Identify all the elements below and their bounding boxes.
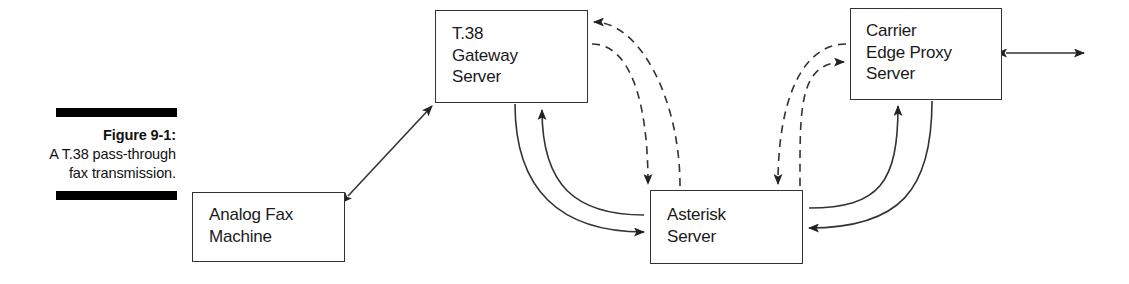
edge-carrier-to-asterisk-dashed — [778, 44, 846, 184]
caption-rule-bottom — [56, 191, 177, 200]
caption-body: A T.38 pass-through fax transmission. — [30, 145, 176, 183]
edge-t38-to-asterisk-dashed — [592, 44, 648, 184]
edge-carrier-to-asterisk-solid — [809, 101, 932, 228]
node-carrier-edge-proxy-server-label: Carrier Edge Proxy Server — [866, 20, 952, 85]
edge-t38-to-asterisk-solid — [515, 104, 644, 232]
caption-rule-top — [56, 108, 177, 117]
figure-page: T.38 Gateway (diagonal, double headed) -… — [0, 0, 1129, 284]
node-carrier-edge-proxy-server: Carrier Edge Proxy Server — [850, 8, 1002, 100]
node-asterisk-server-label: Asterisk Server — [667, 204, 726, 247]
node-analog-fax-machine-label: Analog Fax Machine — [209, 204, 293, 247]
node-analog-fax-machine: Analog Fax Machine — [192, 192, 345, 262]
edge-asterisk-to-carrier-solid — [809, 106, 898, 208]
node-asterisk-server: Asterisk Server — [650, 190, 803, 264]
edge-analog-to-t38 — [348, 106, 432, 196]
caption-text: Figure 9-1: A T.38 pass-through fax tran… — [30, 117, 178, 191]
figure-caption: Figure 9-1: A T.38 pass-through fax tran… — [30, 108, 178, 200]
edge-asterisk-to-t38-solid — [542, 110, 644, 215]
node-t38-gateway-server: T.38 Gateway Server — [435, 10, 588, 103]
edge-asterisk-to-carrier-dashed — [800, 62, 844, 186]
node-t38-gateway-server-label: T.38 Gateway Server — [452, 23, 518, 88]
caption-label: Figure 9-1: — [30, 126, 176, 145]
